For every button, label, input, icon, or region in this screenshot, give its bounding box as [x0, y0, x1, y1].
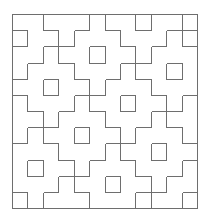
tile-boundaries [13, 15, 198, 209]
tiling-diagram [0, 0, 208, 224]
